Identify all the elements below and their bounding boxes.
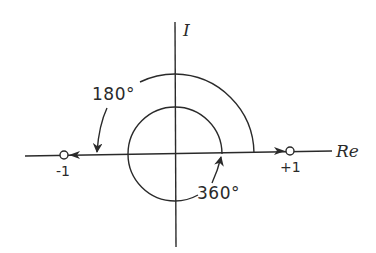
arrow-180 (97, 108, 107, 152)
arrow-360 (212, 157, 221, 183)
imaginary-axis (175, 22, 176, 247)
label-minus-one: -1 (56, 164, 70, 178)
point-plus-one (286, 147, 294, 155)
imaginary-axis-label: I (183, 22, 190, 39)
label-360-degrees: 360° (197, 185, 240, 202)
label-plus-one: +1 (280, 160, 301, 174)
point-minus-one (60, 151, 68, 159)
outer-arc-180 (140, 74, 254, 153)
real-axis-label: Re (336, 143, 359, 160)
arrow-toward-plus-one-icon (274, 147, 285, 155)
label-180-degrees: 180° (92, 86, 135, 103)
